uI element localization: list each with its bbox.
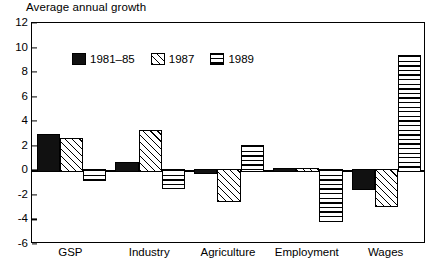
bar-agriculture-2	[241, 145, 264, 172]
y-tick-mark	[32, 243, 37, 244]
plot-area: 121086420-2-4-6 1981–8519871989	[31, 22, 425, 243]
legend-item-1[interactable]: 1987	[151, 53, 195, 65]
bar-gsp-2	[83, 169, 106, 181]
legend-swatch-icon-2	[210, 53, 224, 65]
chart-container: Average annual growth 121086420-2-4-6 19…	[0, 0, 440, 267]
y-tick-mark	[32, 121, 37, 122]
legend-label-1: 1987	[169, 53, 195, 65]
y-tick-label: 2	[22, 140, 28, 152]
y-tick-label: 0	[22, 165, 28, 177]
y-tick-mark	[32, 22, 37, 23]
bar-industry-0	[115, 162, 138, 172]
y-tick-mark	[32, 47, 37, 48]
bar-wages-1	[375, 169, 398, 207]
y-tick-mark	[32, 194, 37, 195]
y-tick-mark	[32, 96, 37, 97]
bar-employment-2	[319, 169, 342, 222]
bar-industry-1	[139, 130, 162, 172]
x-axis-label-gsp: GSP	[58, 246, 82, 258]
chart-title: Average annual growth	[26, 1, 146, 13]
y-tick-mark	[32, 219, 37, 220]
chart-legend: 1981–8519871989	[72, 53, 254, 65]
legend-swatch-icon-0	[72, 53, 86, 65]
bar-gsp-1	[60, 138, 83, 171]
x-axis-label-wages: Wages	[368, 246, 403, 258]
y-tick-label: 12	[15, 17, 28, 29]
bar-employment-1	[296, 168, 319, 172]
bar-industry-2	[162, 169, 185, 189]
y-tick-label: -4	[18, 214, 28, 226]
y-tick-label: 8	[22, 66, 28, 78]
x-axis-label-industry: Industry	[129, 246, 170, 258]
y-tick-label: 10	[15, 42, 28, 54]
legend-label-2: 1989	[228, 53, 254, 65]
y-tick-label: -2	[18, 189, 28, 201]
y-tick-label: 4	[22, 115, 28, 127]
bar-agriculture-0	[194, 169, 217, 174]
y-tick-label: -6	[18, 238, 28, 250]
legend-item-0[interactable]: 1981–85	[72, 53, 135, 65]
x-axis-label-employment: Employment	[275, 246, 339, 258]
legend-swatch-icon-1	[151, 53, 165, 65]
y-tick-mark	[32, 72, 37, 73]
bar-employment-0	[273, 168, 296, 171]
y-tick-label: 6	[22, 91, 28, 103]
x-axis-label-agriculture: Agriculture	[201, 246, 256, 258]
legend-label-0: 1981–85	[90, 53, 135, 65]
bar-gsp-0	[37, 134, 60, 172]
bar-wages-0	[352, 169, 375, 190]
legend-item-2[interactable]: 1989	[210, 53, 254, 65]
bar-wages-2	[398, 55, 421, 172]
bar-agriculture-1	[217, 169, 240, 202]
